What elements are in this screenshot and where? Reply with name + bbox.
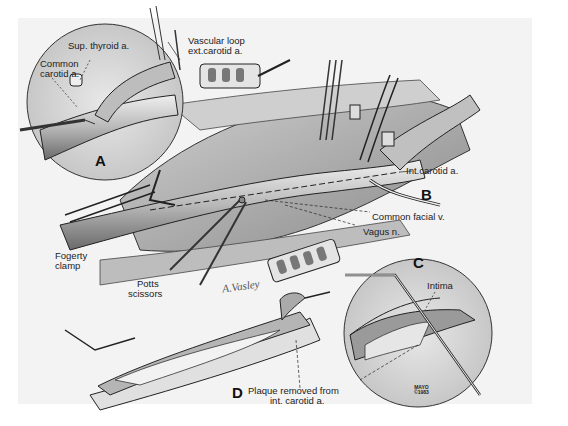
label-potts-line2: scissors <box>128 289 162 299</box>
illustration-canvas: Sup. thyroid a. Common carotid a. Vascul… <box>0 0 568 426</box>
credit-mark: MAYO ©1983 <box>414 385 429 395</box>
label-plaque-line2: int. carotid a. <box>270 396 324 406</box>
surgical-drawing <box>0 0 568 426</box>
label-vagus: Vagus n. <box>363 227 400 237</box>
label-int-carotid: Int.carotid a. <box>406 166 458 176</box>
panel-letter-a: A <box>95 152 106 169</box>
credit-line2: ©1983 <box>414 390 429 395</box>
panel-letter-b: B <box>421 186 432 203</box>
label-common-facial: Common facial v. <box>372 212 445 222</box>
panel-letter-c: C <box>413 254 424 271</box>
label-vascular-loop-line2: ext.carotid a. <box>188 46 242 56</box>
label-common-carotid-line2: carotid a. <box>40 69 79 79</box>
label-intima: Intima <box>427 281 453 291</box>
label-fogerty-line2: clamp <box>55 261 80 271</box>
panel-letter-d: D <box>232 384 243 401</box>
retractor-top <box>200 60 290 88</box>
label-sup-thyroid: Sup. thyroid a. <box>68 41 129 51</box>
